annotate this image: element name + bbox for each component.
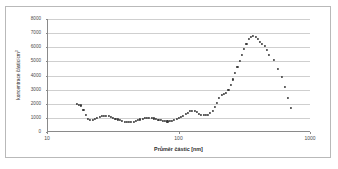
y-tick-label: 3000 [31, 87, 41, 92]
y-axis-title-superscript: 3 [15, 50, 19, 52]
data-point [225, 92, 227, 94]
x-tick-label: 100 [174, 136, 182, 141]
data-point [218, 97, 220, 99]
data-point [243, 48, 245, 50]
data-point [227, 89, 229, 91]
y-tick-label: 6000 [31, 45, 41, 50]
y-tick-label: 8000 [31, 17, 41, 22]
chart-figure: koncentrace částic/cm3 01000200030004000… [5, 6, 331, 158]
x-tick-label: 1000 [304, 136, 315, 141]
data-point [232, 78, 234, 80]
data-point [268, 54, 270, 56]
y-tick-label: 1000 [31, 116, 41, 121]
data-point [184, 113, 186, 115]
data-point [236, 66, 238, 68]
data-point [284, 86, 286, 88]
x-tick-mark [179, 132, 180, 134]
data-series-particle-concentration [48, 19, 310, 131]
data-point [85, 114, 87, 116]
data-point [273, 59, 275, 61]
data-point [277, 68, 279, 70]
data-point [209, 112, 211, 114]
y-tick-label: 7000 [31, 31, 41, 36]
x-axis-title: Průměr částic [nm] [47, 147, 310, 152]
y-axis-title: koncentrace částic/cm3 [16, 50, 22, 99]
x-tick-label: 10 [44, 136, 50, 141]
x-tick-mark [310, 132, 311, 134]
x-axis-ticks: 101001000 [47, 132, 310, 144]
data-point [216, 102, 218, 104]
data-point [234, 72, 236, 74]
data-point [248, 38, 250, 40]
x-tick-mark [47, 132, 48, 134]
data-point [230, 84, 232, 86]
data-point [266, 49, 268, 51]
data-point [241, 54, 243, 56]
plot-area [47, 19, 310, 132]
data-point [281, 76, 283, 78]
data-point [264, 45, 266, 47]
data-point [214, 106, 216, 108]
y-tick-label: 0 [38, 130, 41, 135]
y-tick-label: 2000 [31, 101, 41, 106]
data-point [287, 97, 289, 99]
data-point [82, 109, 84, 111]
data-point [239, 60, 241, 62]
data-point [290, 107, 292, 109]
y-tick-label: 4000 [31, 73, 41, 78]
y-tick-label: 5000 [31, 59, 41, 64]
data-point [80, 104, 82, 106]
y-axis-title-text: koncentrace částic/cm [16, 52, 21, 99]
data-point [245, 43, 247, 45]
data-point [212, 110, 214, 112]
